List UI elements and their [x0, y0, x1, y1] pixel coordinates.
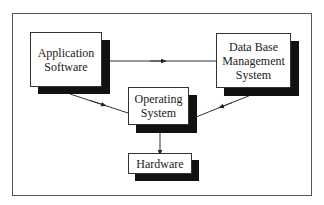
application-software-box: Application Software: [30, 32, 102, 87]
node-label-line: Data Base: [229, 40, 278, 54]
node-label-line: Management: [222, 54, 285, 68]
node-label-line: Hardware: [136, 157, 183, 171]
node-label-line: Operating: [135, 92, 183, 106]
hardware-box: Hardware: [128, 153, 192, 174]
node-label-line: Application: [38, 46, 95, 60]
node-label-line: Software: [44, 60, 87, 74]
dbms-box: Data Base Management System: [216, 33, 291, 88]
operating-system-box: Operating System: [128, 87, 189, 125]
node-label-line: System: [236, 68, 271, 82]
node-label-line: System: [141, 106, 176, 120]
